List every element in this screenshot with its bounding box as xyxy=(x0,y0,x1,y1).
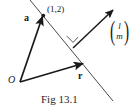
normal-vector-arrow xyxy=(73,10,113,48)
figure-container: a (1,2) r O ( l m ) Fig 13.1 xyxy=(0,0,139,110)
left-parenthesis: ( xyxy=(110,17,115,45)
vector-r-label: r xyxy=(78,71,82,81)
column-vector-entries: l m xyxy=(116,21,123,42)
vector-r-arrow xyxy=(20,64,83,83)
figure-caption: Fig 13.1 xyxy=(41,94,78,105)
point-coordinates-label: (1,2) xyxy=(47,5,64,14)
normal-component-l: l xyxy=(118,21,121,31)
origin-label: O xyxy=(8,75,15,85)
normal-column-vector: ( l m ) xyxy=(108,14,131,48)
vector-a-label: a xyxy=(24,13,29,23)
vector-a-arrow xyxy=(20,17,43,83)
right-angle-icon xyxy=(67,36,79,43)
normal-component-m: m xyxy=(116,31,123,41)
right-parenthesis: ) xyxy=(124,17,129,45)
point-a-dot xyxy=(41,14,45,18)
